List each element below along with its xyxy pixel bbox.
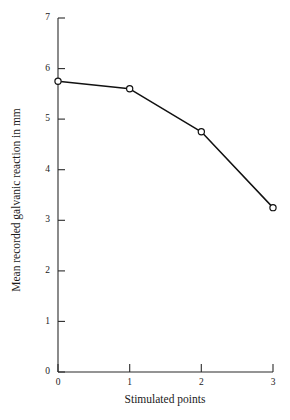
y-tick-label-3: 3	[45, 214, 50, 224]
x-tick-label-0: 0	[56, 377, 61, 387]
x-axis-tick-labels: 0 1 2 3	[56, 377, 276, 387]
x-axis-title: Stimulated points	[125, 393, 206, 406]
x-tick-label-1: 1	[127, 377, 132, 387]
data-point-2	[198, 129, 204, 135]
x-tick-label-2: 2	[199, 377, 204, 387]
y-tick-label-6: 6	[45, 63, 50, 73]
data-point-0	[55, 78, 61, 84]
line-chart-plot: 0 1 2 3 4 5 6 7 0 1 2 3 Stimulated point…	[0, 0, 290, 420]
y-tick-label-5: 5	[45, 113, 50, 123]
y-tick-label-1: 1	[45, 316, 50, 326]
y-tick-label-0: 0	[45, 366, 50, 376]
y-axis-title: Mean recorded galvanic reaction in mm	[10, 108, 23, 292]
y-tick-label-2: 2	[45, 265, 50, 275]
chart-figure: 0 1 2 3 4 5 6 7 0 1 2 3 Stimulated point…	[0, 0, 290, 420]
x-tick-label-3: 3	[271, 377, 276, 387]
y-axis-tick-labels: 0 1 2 3 4 5 6 7	[45, 12, 50, 376]
data-series-markers	[55, 78, 276, 211]
x-axis-ticks	[58, 364, 273, 372]
y-tick-label-7: 7	[45, 12, 50, 22]
data-series-line	[58, 81, 273, 207]
data-point-3	[270, 205, 276, 211]
data-point-1	[127, 86, 133, 92]
y-axis-ticks	[58, 18, 65, 372]
y-tick-label-4: 4	[45, 164, 50, 174]
